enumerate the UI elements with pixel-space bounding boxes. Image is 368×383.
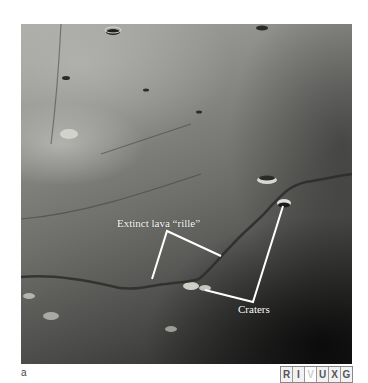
band-u: U [317,367,329,382]
band-g: G [341,367,352,382]
band-r: R [281,367,293,382]
lunar-surface-photo: Extinct lava “rille” Craters [21,24,352,364]
rivuxg-wavelength-indicator: R I V U X G [280,366,353,383]
band-x: X [329,367,341,382]
rille-pointer-lines [152,231,221,279]
panel-letter: a [21,367,27,378]
photo-features [21,24,352,364]
rille-channel [21,174,352,289]
band-i: I [293,367,305,382]
band-v-active: V [305,367,317,382]
craters-label: Craters [238,303,270,315]
rille-label: Extinct lava “rille” [117,217,200,229]
